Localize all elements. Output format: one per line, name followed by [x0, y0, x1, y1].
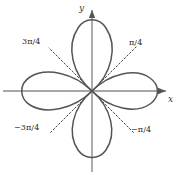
x-axis-arrow	[158, 88, 166, 94]
axes-group	[3, 10, 166, 172]
x-axis-label: x	[168, 95, 173, 104]
plot-canvas	[0, 0, 179, 175]
y-axis-arrow	[89, 10, 95, 18]
angle-label-minus-3pi-over-4: −3π/4	[14, 124, 39, 132]
y-axis-label: y	[79, 4, 84, 13]
polar-rose-figure: y x π/4 3π/4 −3π/4 −π/4	[0, 0, 179, 175]
angle-label-pi-over-4: π/4	[129, 39, 142, 47]
angle-label-minus-pi-over-4: −π/4	[131, 126, 151, 134]
angle-label-3pi-over-4: 3π/4	[22, 38, 41, 46]
